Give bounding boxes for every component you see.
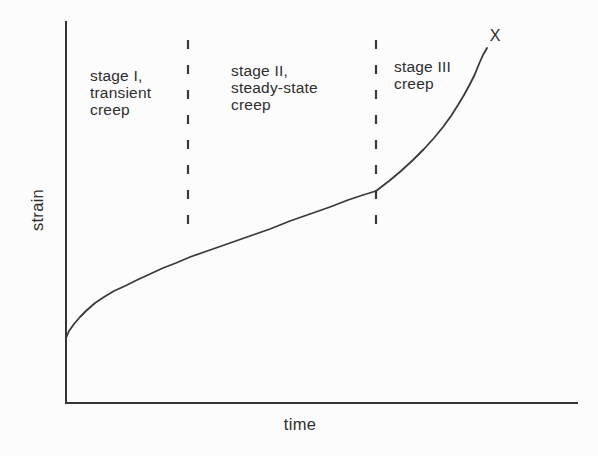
creep-curve-figure: strain time stage I, transient creep sta…	[0, 0, 598, 456]
stage-1-annotation: stage I, transient creep	[90, 67, 151, 118]
rupture-x-marker: X	[490, 27, 501, 45]
stage-2-annotation: stage II, steady-state creep	[231, 62, 318, 113]
stage-3-annotation: stage III creep	[394, 58, 451, 92]
x-axis-label: time	[284, 415, 316, 434]
y-axis-label: strain	[28, 189, 47, 231]
